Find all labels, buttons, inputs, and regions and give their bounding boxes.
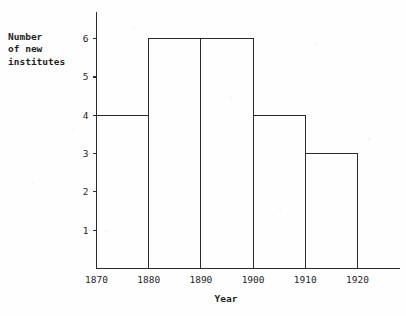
bars-group xyxy=(97,39,358,269)
y-tick-label: 4 xyxy=(83,110,89,121)
x-tick-label: 1900 xyxy=(242,274,265,285)
x-tick-label: 1890 xyxy=(189,274,212,285)
x-axis-title: Year xyxy=(215,293,238,304)
y-tick-label: 2 xyxy=(83,186,89,197)
y-tick-label: 1 xyxy=(83,225,89,236)
x-tick-label: 1920 xyxy=(346,274,369,285)
histogram-bar xyxy=(305,154,357,269)
axes-group xyxy=(97,12,401,269)
histogram-bar xyxy=(201,39,253,269)
x-axis-ticks xyxy=(97,264,358,269)
x-tick-label: 1870 xyxy=(85,274,108,285)
y-axis-tick-labels: 123456 xyxy=(83,33,89,236)
histogram-bar xyxy=(253,115,305,268)
histogram-plot: 123456 187018801890190019101920 Year xyxy=(0,0,406,316)
x-tick-label: 1880 xyxy=(137,274,160,285)
x-axis-tick-labels: 187018801890190019101920 xyxy=(85,274,369,285)
y-tick-label: 3 xyxy=(83,148,89,159)
y-tick-label: 6 xyxy=(83,33,89,44)
histogram-bar xyxy=(97,115,149,268)
x-tick-label: 1910 xyxy=(294,274,317,285)
histogram-bar xyxy=(149,39,201,269)
y-tick-label: 5 xyxy=(83,71,89,82)
chart-page: Number of new institutes 123456 18701880… xyxy=(0,0,406,316)
